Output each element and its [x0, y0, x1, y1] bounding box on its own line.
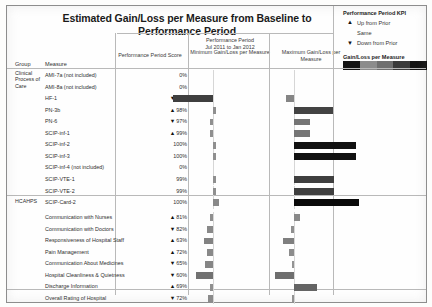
zero-line	[213, 235, 214, 247]
table-row[interactable]: Communication with Doctors▼82%	[7, 224, 426, 236]
min-bar[interactable]	[196, 272, 213, 279]
measure-label: Communication with Doctors	[45, 224, 114, 236]
min-bar[interactable]	[213, 199, 219, 206]
score-value: ▼60%	[125, 270, 187, 282]
score-value: 100%	[125, 197, 187, 209]
zero-line	[294, 224, 295, 236]
zero-line	[294, 70, 295, 82]
max-bar[interactable]	[292, 295, 294, 302]
max-bar[interactable]	[294, 199, 359, 206]
table-row[interactable]: AMI-7a (not included)0%	[7, 70, 426, 82]
measure-label: Hospital Cleanliness & Quietness	[45, 270, 125, 282]
zero-line	[213, 281, 214, 293]
table-row[interactable]: Communication with Nurses▲81%	[7, 212, 426, 224]
column-header-score: Performance Period Score	[117, 52, 183, 59]
arrow-up-icon: ▲	[170, 214, 176, 220]
legend-scale-title: Gain/Loss per Measure	[343, 54, 429, 60]
score-value: ▲63%	[125, 235, 187, 247]
table-row[interactable]: PN-6▼97%	[7, 116, 426, 128]
min-bar[interactable]	[204, 238, 213, 245]
measure-label: SCIP-Card-2	[45, 197, 76, 209]
max-bar[interactable]	[289, 249, 294, 256]
table-row[interactable]: PN-3b▲98%	[7, 105, 426, 117]
max-bar[interactable]	[294, 107, 333, 114]
table-row[interactable]: SCIP-inf-4 (not included)0%	[7, 162, 426, 174]
chart-page: Estimated Gain/Loss per Measure from Bas…	[0, 0, 432, 307]
table-row[interactable]: Communication About Medicines▼65%	[7, 258, 426, 270]
table-row[interactable]: Discharge Information▲69%	[7, 281, 426, 293]
max-bar[interactable]	[283, 238, 294, 245]
table-row[interactable]: Responsiveness of Hospital Staff▲63%	[7, 235, 426, 247]
table-row[interactable]: Hospital Cleanliness & Quietness▼60%	[7, 270, 426, 282]
column-header-maximum: Maximum Gain/Loss per Measure	[271, 49, 351, 63]
max-bar[interactable]	[294, 142, 356, 149]
min-bar[interactable]	[205, 261, 213, 268]
table-row[interactable]: Pain Management▲72%	[7, 247, 426, 259]
measure-label: PN-6	[45, 116, 57, 128]
min-bar[interactable]	[213, 188, 216, 195]
min-bar[interactable]	[210, 130, 213, 137]
table-row[interactable]: SCIP-inf-2100%	[7, 139, 426, 151]
zero-line	[213, 162, 214, 174]
score-value: ▼82%	[125, 224, 187, 236]
max-bar[interactable]	[294, 130, 310, 137]
max-bar[interactable]	[292, 261, 294, 268]
zero-line	[213, 82, 214, 94]
legend-panel: Performance Period KPI ▲ Up from Prior S…	[343, 10, 429, 70]
max-bar[interactable]	[294, 188, 334, 195]
measure-label: Overall Rating of Hospital	[45, 293, 106, 305]
measure-label: HF-1	[45, 93, 57, 105]
min-bar[interactable]	[213, 176, 216, 183]
score-value: 99%	[125, 174, 187, 186]
zero-line	[294, 82, 295, 94]
table-row[interactable]: SCIP-Card-2100%	[7, 197, 426, 209]
arrow-up-icon: ▲	[170, 283, 176, 289]
zero-line	[213, 293, 214, 305]
max-bar[interactable]	[294, 153, 356, 160]
max-bar[interactable]	[294, 214, 300, 221]
measure-label: Communication About Medicines	[45, 258, 124, 270]
max-bar[interactable]	[286, 95, 294, 102]
arrow-down-icon: ▼	[343, 40, 357, 47]
min-bar[interactable]	[210, 284, 213, 291]
table-row[interactable]: Overall Rating of Hospital▼72%	[7, 293, 426, 305]
measure-label: SCIP-inf-4 (not included)	[45, 162, 104, 174]
min-bar[interactable]	[207, 226, 213, 233]
min-bar[interactable]	[213, 153, 216, 160]
table-row[interactable]: SCIP-VTE-299%	[7, 186, 426, 198]
legend-label-up: Up from Prior	[357, 20, 390, 26]
min-bar[interactable]	[210, 214, 213, 221]
max-bar[interactable]	[294, 176, 334, 183]
table-row[interactable]: HF-1▼92%	[7, 93, 426, 105]
min-bar[interactable]	[213, 107, 216, 114]
min-bar[interactable]	[207, 249, 213, 256]
score-value: ▼72%	[125, 293, 187, 305]
min-bar[interactable]	[208, 295, 213, 302]
measure-label: SCIP-inf-2	[45, 139, 70, 151]
measure-label: SCIP-inf-3	[45, 151, 70, 163]
legend-label-down: Down from Prior	[357, 40, 397, 46]
min-bar[interactable]	[173, 95, 213, 102]
measure-label: Communication with Nurses	[45, 212, 112, 224]
arrow-down-icon: ▼	[170, 295, 176, 301]
max-bar[interactable]	[275, 272, 294, 279]
measure-label: AMI-7a (not included)	[45, 70, 97, 82]
min-bar[interactable]	[210, 119, 213, 126]
max-bar[interactable]	[291, 226, 294, 233]
zero-line	[213, 128, 214, 140]
score-value: 0%	[125, 162, 187, 174]
score-value: ▲81%	[125, 212, 187, 224]
measure-label: PN-3b	[45, 105, 60, 117]
column-header-measure: Measure	[45, 61, 67, 67]
score-value: ▼97%	[125, 116, 187, 128]
max-bar[interactable]	[294, 119, 310, 126]
arrow-down-icon: ▼	[170, 260, 176, 266]
min-bar[interactable]	[213, 142, 216, 149]
column-header-group: Group	[15, 61, 31, 67]
score-value: ▲99%	[125, 128, 187, 140]
table-row[interactable]: AMI-8a (not included)0%	[7, 82, 426, 94]
table-row[interactable]: SCIP-VTE-199%	[7, 174, 426, 186]
max-bar[interactable]	[294, 284, 317, 291]
table-row[interactable]: SCIP-inf-3100%	[7, 151, 426, 163]
table-row[interactable]: SCIP-inf-1▲99%	[7, 128, 426, 140]
